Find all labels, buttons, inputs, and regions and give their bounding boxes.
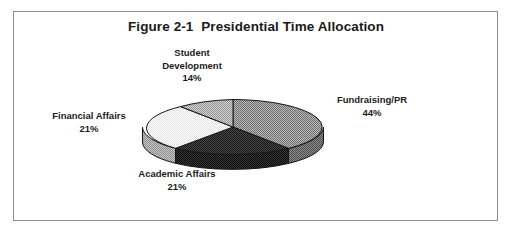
pie-label-academic-affairs: Academic Affairs 21% bbox=[112, 168, 242, 193]
pie-label-fundraising-pr: Fundraising/PR 44% bbox=[312, 94, 432, 119]
pie-label-academic-affairs-line1: Academic Affairs bbox=[138, 168, 215, 179]
pie-label-student-development: Student Development 14% bbox=[132, 47, 252, 85]
pie-label-student-development-line2: Development bbox=[162, 60, 222, 71]
pie-label-financial-affairs-line1: Financial Affairs bbox=[52, 110, 126, 121]
pie-label-financial-affairs: Financial Affairs 21% bbox=[28, 110, 150, 135]
pie-label-fundraising-pr-line1: Fundraising/PR bbox=[337, 94, 407, 105]
pie-label-financial-affairs-percent: 21% bbox=[28, 123, 150, 136]
pie-label-student-development-percent: 14% bbox=[132, 72, 252, 85]
pie-label-academic-affairs-percent: 21% bbox=[112, 181, 242, 194]
pie-label-student-development-line1: Student bbox=[174, 47, 209, 58]
pie-label-fundraising-pr-percent: 44% bbox=[312, 107, 432, 120]
